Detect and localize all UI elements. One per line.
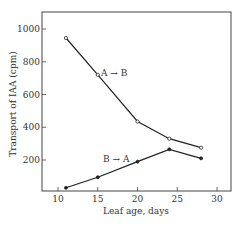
- x-tick-label: 15: [92, 194, 104, 204]
- label-b-to-a: B → A: [103, 154, 130, 164]
- filled-circle-marker: [200, 157, 203, 160]
- series-line-0: [66, 38, 201, 148]
- filled-circle-marker: [96, 176, 99, 179]
- data-series: [64, 36, 202, 189]
- x-tick-label: 30: [211, 194, 223, 204]
- x-tick-label: 25: [172, 194, 184, 204]
- open-circle-marker: [200, 146, 203, 149]
- filled-circle-marker: [168, 148, 171, 151]
- axes-box: [42, 12, 231, 191]
- chart: 1015202530 2004006008001000 A → BB → A L…: [0, 0, 245, 225]
- x-axis-label: Leaf age, days: [103, 206, 169, 216]
- filled-circle-marker: [64, 186, 67, 189]
- open-circle-marker: [64, 36, 67, 39]
- y-tick-label: 200: [23, 155, 40, 165]
- y-axis-label: Transport of IAA (cpm): [8, 51, 18, 156]
- y-tick-label: 1000: [17, 24, 40, 34]
- x-tick-label: 10: [52, 194, 64, 204]
- x-axis-ticks: 1015202530: [52, 187, 223, 204]
- open-circle-marker: [136, 120, 139, 123]
- y-tick-label: 800: [23, 57, 40, 67]
- open-circle-marker: [168, 137, 171, 140]
- series-line-1: [66, 149, 201, 187]
- filled-circle-marker: [136, 160, 139, 163]
- y-tick-label: 600: [23, 90, 40, 100]
- open-circle-marker: [96, 73, 99, 76]
- label-a-to-b: A → B: [100, 68, 128, 78]
- x-tick-label: 20: [132, 194, 144, 204]
- y-tick-label: 400: [23, 122, 40, 132]
- plot-frame: [42, 12, 231, 191]
